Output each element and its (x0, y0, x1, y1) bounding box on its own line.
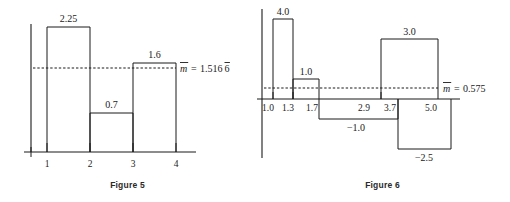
figure-6-bar-1 (273, 19, 293, 99)
figure-5-value-label-2: 0.7 (105, 99, 118, 110)
figure-5-mean-value: 1.516 (200, 63, 223, 74)
figure-5-tick-label-3: 3 (131, 159, 136, 169)
figure-5-bar-1 (47, 27, 90, 152)
figure-6-tick-label-1-0: 1.0 (262, 103, 274, 113)
figure-6-value-label-2: 1.0 (300, 66, 313, 77)
figure-5-bar-3 (133, 63, 176, 152)
figure-6-bar-5 (381, 39, 438, 99)
figure-6-mean-symbol: m (443, 83, 450, 94)
figure-6-tick-label-1-7: 1.7 (306, 103, 318, 113)
figure-5-chart: 2.25 0.7 1.6 1 2 3 4 m = 1.516 6 (0, 0, 255, 178)
figures-page: 2.25 0.7 1.6 1 2 3 4 m = 1.516 6 Figure … (0, 0, 510, 202)
figure-6-mean-annotation: m = 0.575 (443, 83, 486, 94)
figure-5-tick-label-1: 1 (45, 159, 50, 169)
figure-6-value-label-1: 4.0 (277, 6, 290, 17)
figure-5-bar-2 (90, 113, 133, 152)
figure-5-mean-repeating-digit: 6 (225, 63, 230, 74)
figure-6-tick-label-1-3: 1.3 (282, 103, 294, 113)
figure-5-mean-annotation: m = 1.516 6 (180, 63, 230, 74)
figure-6-chart: 4.0 1.0 −1.0 −2.5 3.0 1.0 1.3 1.7 2.9 3.… (255, 0, 510, 178)
figure-6-tick-label-3-7: 3.7 (384, 103, 396, 113)
figure-6-value-label-3: −1.0 (347, 122, 365, 133)
figure-6-block: 4.0 1.0 −1.0 −2.5 3.0 1.0 1.3 1.7 2.9 3.… (255, 0, 510, 202)
figure-6-tick-label-2-9: 2.9 (358, 103, 370, 113)
figure-5-caption: Figure 5 (0, 180, 255, 190)
figure-6-mean-equals: = (454, 83, 460, 94)
figure-5-mean-symbol: m (180, 63, 187, 74)
figure-6-value-label-5: 3.0 (403, 26, 416, 37)
figure-5-value-label-1: 2.25 (60, 13, 78, 24)
figure-5-tick-label-4: 4 (174, 159, 179, 169)
figure-6-mean-value: 0.575 (463, 83, 486, 94)
figure-6-tick-label-5-0: 5.0 (425, 103, 437, 113)
figure-5-tick-label-2: 2 (88, 159, 93, 169)
figure-5-value-label-3: 1.6 (148, 49, 161, 60)
figure-5-block: 2.25 0.7 1.6 1 2 3 4 m = 1.516 6 Figure … (0, 0, 255, 202)
figure-6-bar-2 (293, 79, 319, 99)
figure-5-mean-equals: = (191, 63, 197, 74)
figure-6-value-label-4: −2.5 (415, 152, 433, 163)
figure-6-caption: Figure 6 (255, 180, 510, 190)
